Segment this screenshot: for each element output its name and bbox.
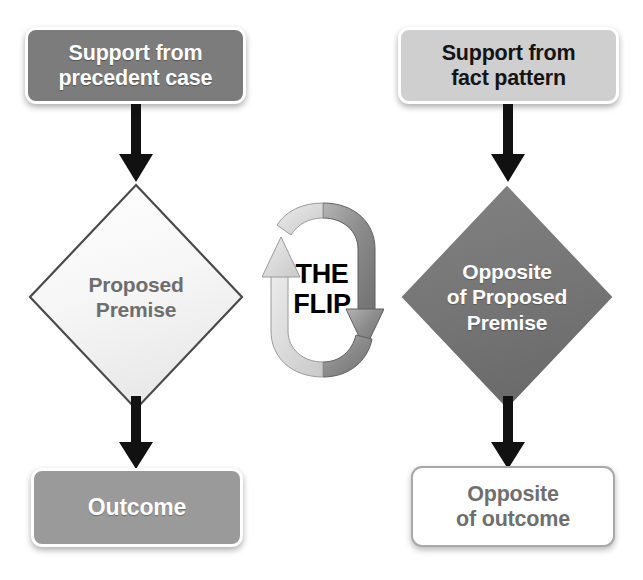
flip-label-line2: FLIP bbox=[293, 289, 350, 319]
flip-arc-bottom-dark bbox=[323, 335, 372, 377]
diamond-shape-dark bbox=[397, 181, 617, 413]
support-from-precedent-case-box[interactable]: Support from precedent case bbox=[25, 27, 246, 104]
flip-label: THE FLIP bbox=[279, 252, 365, 326]
diamond-shape-light bbox=[26, 181, 246, 413]
opposite-of-outcome-box[interactable]: Opposite of outcome bbox=[411, 466, 615, 547]
arrow-down-left-top bbox=[113, 104, 159, 186]
arrow-down-right-top bbox=[485, 104, 531, 186]
outcome-box[interactable]: Outcome bbox=[31, 468, 243, 547]
flip-arc-top-light bbox=[277, 203, 323, 235]
proposed-premise-diamond[interactable]: Proposed Premise bbox=[26, 181, 246, 413]
support-from-fact-pattern-box[interactable]: Support from fact pattern bbox=[398, 27, 619, 104]
flip-label-line1: THE bbox=[295, 259, 348, 289]
flip-diagram: Support from precedent case Support from… bbox=[0, 0, 643, 580]
opposite-of-proposed-premise-diamond[interactable]: Opposite of Proposed Premise bbox=[397, 181, 617, 413]
arrow-down-left-bottom bbox=[113, 396, 159, 472]
arrow-down-right-bottom bbox=[485, 396, 531, 472]
